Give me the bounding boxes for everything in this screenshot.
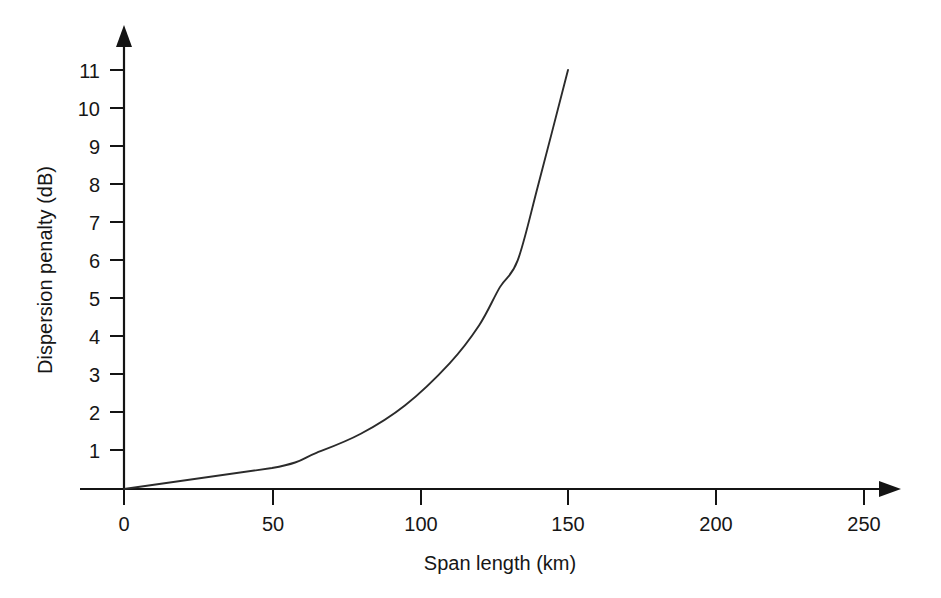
x-tick-label-50: 50 bbox=[262, 513, 284, 535]
x-tick-label-250: 250 bbox=[847, 513, 880, 535]
y-tick-label-8: 8 bbox=[89, 174, 100, 196]
y-tick-label-7: 7 bbox=[89, 212, 100, 234]
y-tick-label-2: 2 bbox=[89, 402, 100, 424]
y-tick-label-10: 10 bbox=[78, 98, 100, 120]
chart-figure: 11 10 9 8 7 6 5 4 3 2 1 0 50 100 150 bbox=[0, 0, 941, 598]
x-tick-label-150: 150 bbox=[551, 513, 584, 535]
x-tick-label-200: 200 bbox=[699, 513, 732, 535]
y-tick-label-11: 11 bbox=[79, 60, 100, 82]
x-tick-label-100: 100 bbox=[404, 513, 437, 535]
y-axis-title: Dispersion penalty (dB) bbox=[34, 166, 56, 374]
y-tick-label-1: 1 bbox=[89, 440, 100, 462]
y-tick-label-5: 5 bbox=[89, 288, 100, 310]
y-tick-label-4: 4 bbox=[89, 326, 100, 348]
x-axis-title: Span length (km) bbox=[424, 552, 576, 574]
y-tick-label-6: 6 bbox=[89, 250, 100, 272]
chart-background bbox=[0, 0, 941, 598]
y-tick-label-9: 9 bbox=[89, 136, 100, 158]
x-tick-label-0: 0 bbox=[118, 513, 129, 535]
y-tick-label-3: 3 bbox=[89, 364, 100, 386]
dispersion-penalty-line-chart: 11 10 9 8 7 6 5 4 3 2 1 0 50 100 150 bbox=[0, 0, 941, 598]
